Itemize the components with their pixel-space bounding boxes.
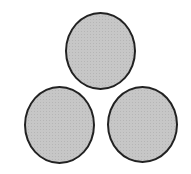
diagram-canvas bbox=[0, 0, 191, 174]
circle-top bbox=[65, 12, 136, 90]
circle-bottom-right bbox=[107, 86, 178, 163]
circle-bottom-left bbox=[24, 86, 95, 164]
